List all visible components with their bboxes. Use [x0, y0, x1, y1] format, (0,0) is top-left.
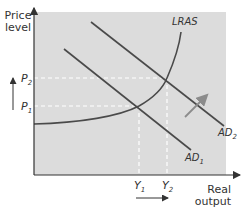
- p1-label: P1: [21, 100, 32, 115]
- y-axis-label-line2: level: [5, 21, 31, 34]
- y1-label: Y1: [134, 179, 145, 194]
- x-axis-label-line2: output: [195, 195, 232, 208]
- ad-lras-chart: Price level Real output P2 P1 Y1 Y2 LRAS…: [0, 0, 247, 209]
- lras-label: LRAS: [172, 16, 198, 27]
- plot-background: [34, 12, 226, 175]
- y2-label: Y2: [162, 179, 174, 194]
- p2-label: P2: [21, 72, 33, 87]
